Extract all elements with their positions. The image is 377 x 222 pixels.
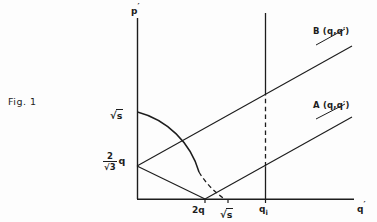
x-tick-label-sqrt-s: √s: [220, 205, 233, 221]
sqrt-radicand: 3: [109, 161, 116, 172]
y-axis-label-prime: ′: [137, 3, 139, 12]
y-tick-label-two-over-sqrt3-q: 2 √3 q: [103, 152, 125, 171]
curve-label-A: A (q,q′): [313, 101, 350, 110]
curve-A-line: [205, 117, 352, 199]
sqrt-group: √s: [110, 111, 123, 121]
chord-upper-line: [137, 166, 205, 199]
arc-solid: [138, 112, 200, 172]
figure-root: Fig. 1 p′ q′: [0, 0, 377, 222]
x-tick-label-qi: qi: [259, 205, 268, 217]
y-axis-label: p′: [131, 4, 140, 16]
qi-subscript: i: [265, 209, 267, 217]
x-axis-label: q′: [357, 202, 366, 214]
fraction-numerator: 2: [106, 152, 114, 161]
fraction-group: 2 √3: [103, 152, 117, 171]
curve-label-B: B (q,q′): [313, 27, 349, 36]
sqrt-radicand: s: [226, 208, 233, 220]
fraction-suffix: q: [119, 156, 126, 167]
y-tick-label-sqrt-s: √s: [110, 106, 123, 122]
x-tick-label-2q: 2q: [192, 206, 205, 215]
sqrt-radicand: s: [116, 109, 123, 121]
x-axis-label-prime: ′: [363, 201, 365, 210]
fraction-denominator: √3: [103, 161, 117, 171]
sqrt-group: √s: [220, 210, 233, 220]
